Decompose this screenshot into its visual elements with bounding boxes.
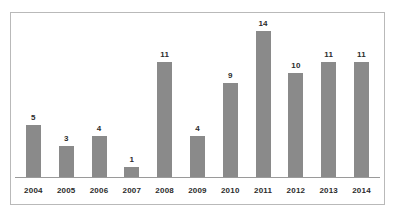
bar-rect [256,31,271,178]
plot-area: 5 3 4 1 11 [11,13,384,204]
bar-rect [321,62,336,178]
axis-tick-label: 2009 [181,186,214,195]
axis-tick-label: 2013 [312,186,345,195]
axis-tick-label: 2004 [17,186,50,195]
bar-value-label: 14 [258,20,267,28]
bar-group: 4 [83,17,116,178]
bar-value-label: 4 [195,125,200,133]
bar-group: 1 [115,17,148,178]
axis-tick-label: 2011 [247,186,280,195]
axis-tick-label: 2007 [115,186,148,195]
axis-tick-label: 2010 [214,186,247,195]
bar-value-label: 11 [357,51,366,59]
bar-value-label: 11 [160,51,169,59]
axis-tick-label: 2014 [345,186,378,195]
chart-frame: 5 3 4 1 11 [10,12,385,205]
bar-group: 11 [345,17,378,178]
category-axis-labels: 2004 2005 2006 2007 2008 2009 2010 2011 … [17,181,378,199]
category-axis-line [15,177,380,178]
bar-value-label: 5 [31,114,36,122]
bar-group: 14 [247,17,280,178]
bar-value-label: 9 [228,72,233,80]
axis-tick-label: 2005 [50,186,83,195]
bar-chart: 5 3 4 1 11 [0,0,395,213]
bar-rect [190,136,205,178]
bar-group: 3 [50,17,83,178]
bars-layer: 5 3 4 1 11 [17,17,378,178]
axis-tick-label: 2012 [280,186,313,195]
bar-rect [157,62,172,178]
bar-rect [288,73,303,178]
bar-value-label: 1 [130,156,135,164]
bar-value-label: 3 [64,135,69,143]
bar-group: 4 [181,17,214,178]
bar-value-label: 11 [324,51,333,59]
axis-tick-label: 2008 [148,186,181,195]
bar-value-label: 10 [291,62,300,70]
bar-rect [26,125,41,178]
bar-rect [354,62,369,178]
bar-group: 11 [148,17,181,178]
axis-tick-label: 2006 [83,186,116,195]
bar-rect [59,146,74,178]
bar-group: 9 [214,17,247,178]
bar-group: 11 [312,17,345,178]
bar-rect [92,136,107,178]
bar-rect [223,83,238,178]
bar-group: 5 [17,17,50,178]
bar-group: 10 [280,17,313,178]
bar-value-label: 4 [97,125,102,133]
